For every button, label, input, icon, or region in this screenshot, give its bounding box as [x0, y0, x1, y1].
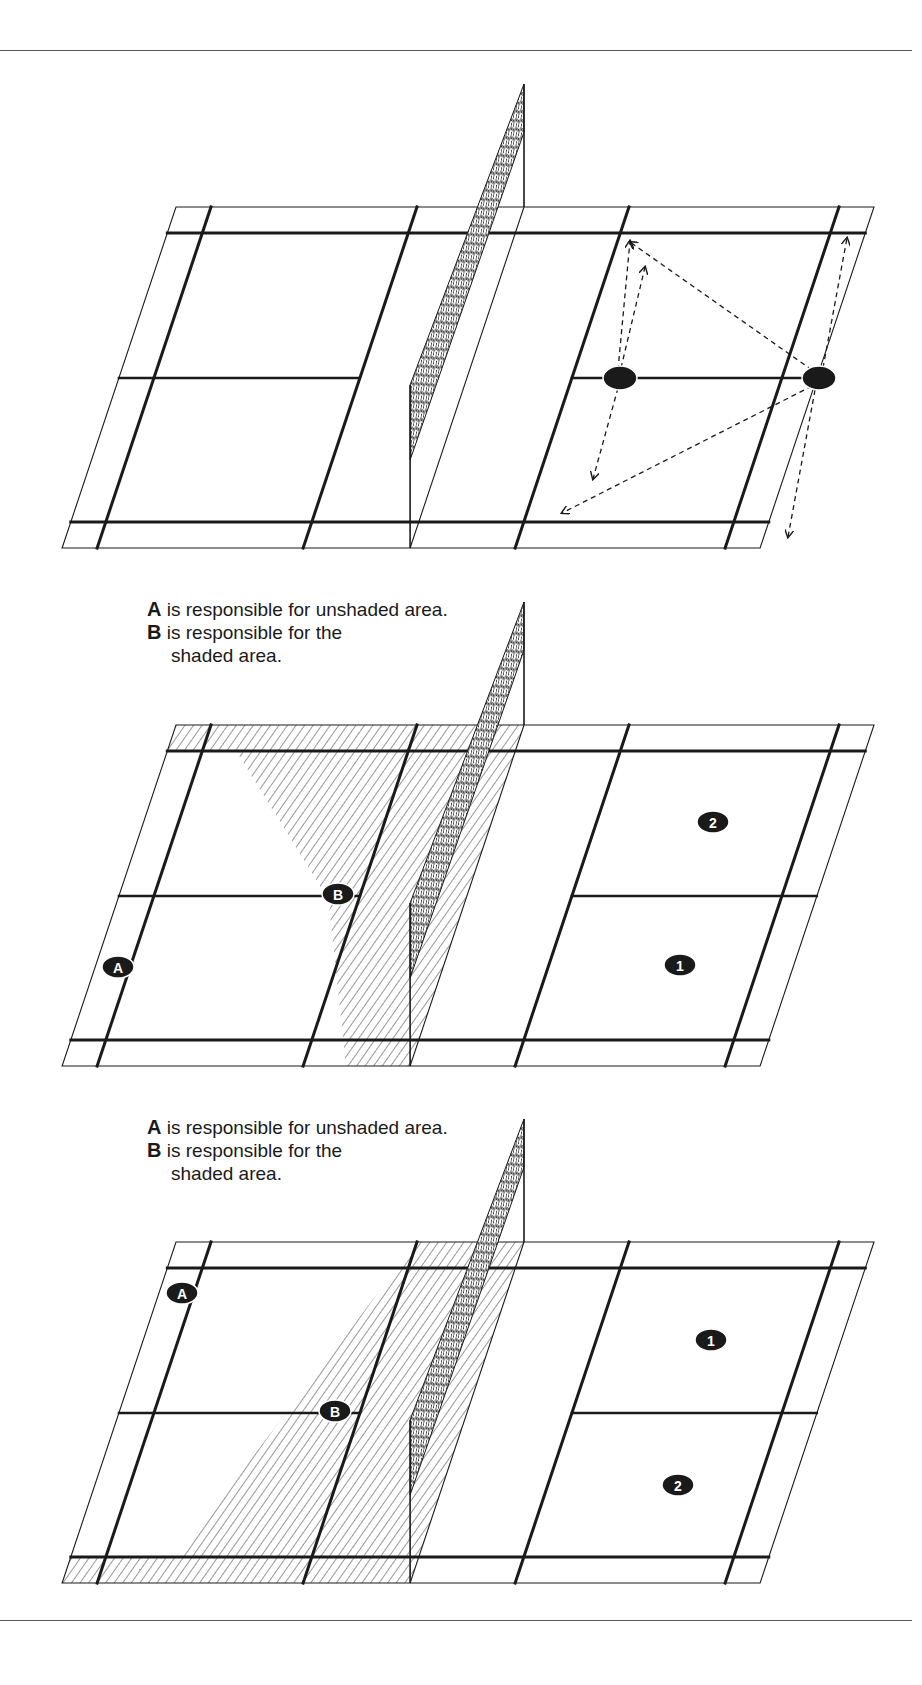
caption-panel-3: A is responsible for unshaded area. B is…	[147, 1116, 448, 1185]
player-marker	[603, 366, 637, 390]
player-label: A	[177, 1286, 187, 1302]
movement-arrow	[621, 267, 645, 368]
player-marker-2: 2	[697, 811, 729, 833]
caption-line-a: A is responsible for unshaded area.	[147, 1116, 448, 1139]
player-dot-icon	[603, 366, 637, 390]
movement-arrow	[788, 390, 815, 537]
player-dot-icon	[802, 366, 836, 390]
caption-text-a: is responsible for unshaded area.	[161, 599, 447, 620]
caption-line-a: A is responsible for unshaded area.	[147, 598, 448, 621]
player-marker-b: B	[319, 1400, 351, 1422]
caption-line-b-cont: shaded area.	[147, 644, 448, 667]
player-label: 1	[707, 1333, 715, 1349]
caption-text-b-cont: shaded area.	[171, 1163, 282, 1184]
badminton-court-diagram: AB21 AB12	[0, 0, 922, 1685]
player-marker-b: B	[322, 883, 354, 905]
player-marker	[802, 366, 836, 390]
player-label: A	[113, 960, 123, 976]
caption-text-b: is responsible for the	[161, 1140, 342, 1161]
caption-line-b: B is responsible for the	[147, 1139, 448, 1162]
movement-arrow	[593, 388, 618, 479]
movement-arrow	[562, 386, 812, 513]
player-label: B	[333, 887, 343, 903]
court-panel-rotation	[62, 84, 874, 548]
player-label: 2	[709, 815, 717, 831]
player-marker-1: 1	[695, 1329, 727, 1351]
player-label: 1	[676, 958, 684, 974]
net-mesh	[410, 84, 524, 460]
caption-panel-2: A is responsible for unshaded area. B is…	[147, 598, 448, 667]
caption-text-b-cont: shaded area.	[171, 645, 282, 666]
player-marker-a: A	[102, 956, 134, 978]
caption-key-a: A	[147, 598, 161, 620]
player-label: 2	[674, 1478, 682, 1494]
court-panel-coverage-split: AB21	[62, 602, 874, 1066]
player-marker-1: 1	[664, 954, 696, 976]
court-panel-coverage-corner: AB12	[62, 1119, 874, 1583]
player-marker-a: A	[166, 1282, 198, 1304]
player-label: B	[330, 1404, 340, 1420]
movement-arrow	[823, 238, 847, 368]
caption-key-b: B	[147, 1139, 161, 1161]
caption-key-a: A	[147, 1116, 161, 1138]
caption-line-b-cont: shaded area.	[147, 1162, 448, 1185]
caption-text-b: is responsible for the	[161, 622, 342, 643]
player-marker-2: 2	[662, 1474, 694, 1496]
caption-key-b: B	[147, 621, 161, 643]
caption-text-a: is responsible for unshaded area.	[161, 1117, 447, 1138]
movement-arrow	[618, 241, 630, 370]
caption-line-b: B is responsible for the	[147, 621, 448, 644]
movement-arrow	[630, 242, 812, 370]
